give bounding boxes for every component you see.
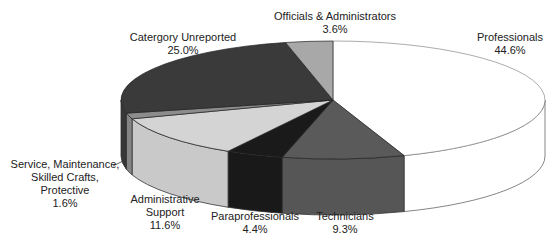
label-unreported: Catergory Unreported25.0% [108,31,258,57]
label-paraprofessionals: Paraprofessionals4.4% [200,210,310,236]
label-officials: Officials & Administrators3.6% [240,10,430,36]
pie-top [121,41,545,159]
label-admin-support: AdministrativeSupport11.6% [120,193,210,232]
label-professionals: Professionals44.6% [460,31,558,57]
label-technicians: Technicians9.3% [300,210,390,236]
pie-side-technicians [282,156,404,215]
pie-side-paraprofessionals [228,151,282,213]
label-service: Service, Maintenance,Skilled Crafts,Prot… [0,158,130,210]
